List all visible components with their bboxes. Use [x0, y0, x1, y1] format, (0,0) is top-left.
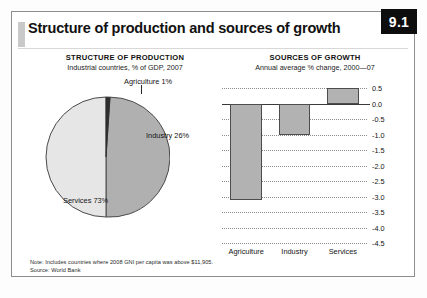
gridline [222, 212, 367, 213]
bar-agriculture [230, 104, 262, 200]
x-axis-label-industry: Industry [270, 247, 318, 256]
footnote-note: Note: Includes countries where 2008 GNI … [30, 259, 213, 265]
y-axis-tick-label: -2.5 [372, 177, 385, 186]
header-divider [18, 48, 408, 49]
bar-chart [222, 88, 367, 243]
bar-panel-title: SOURCES OF GROWTH [240, 53, 390, 62]
bar-industry [279, 104, 311, 135]
bar-services [327, 88, 359, 104]
pie-label-industry: Industry 26% [146, 131, 189, 140]
x-axis-label-services: Services [319, 247, 367, 256]
pie-label-services: Services 73% [63, 196, 108, 205]
pie-label-agriculture: Agriculture 1% [124, 77, 172, 86]
y-axis-tick-label: -0.5 [372, 115, 385, 124]
figure-page: Structure of production and sources of g… [0, 0, 427, 298]
pie-panel-title: STRUCTURE OF PRODUCTION [40, 53, 210, 62]
y-axis-tick-label: 0.5 [372, 84, 382, 93]
y-axis-tick-label: -3.5 [372, 208, 385, 217]
y-axis-tick-label: 0.0 [372, 100, 382, 109]
y-axis-tick-label: -3.0 [372, 193, 385, 202]
gridline [222, 228, 367, 229]
gridline [222, 243, 367, 244]
y-axis-tick-label: -4.5 [372, 239, 385, 248]
page-title: Structure of production and sources of g… [28, 20, 340, 36]
x-axis-label-agriculture: Agriculture [222, 247, 270, 256]
footnote-source: Source: World Bank [30, 267, 81, 273]
pie-panel-subtitle: Industrial countries, % of GDP, 2007 [30, 63, 220, 72]
pie-slice-services [106, 97, 170, 217]
bar-panel-subtitle: Annual average % change, 2000—07 [225, 63, 405, 72]
figure-number-badge: 9.1 [381, 9, 417, 34]
y-axis-tick-label: -4.0 [372, 224, 385, 233]
agriculture-leader-line [141, 85, 142, 94]
y-axis-tick-label: -2.0 [372, 162, 385, 171]
y-axis-tick-label: -1.5 [372, 146, 385, 155]
title-accent-block [18, 22, 25, 47]
y-axis-tick-label: -1.0 [372, 131, 385, 140]
